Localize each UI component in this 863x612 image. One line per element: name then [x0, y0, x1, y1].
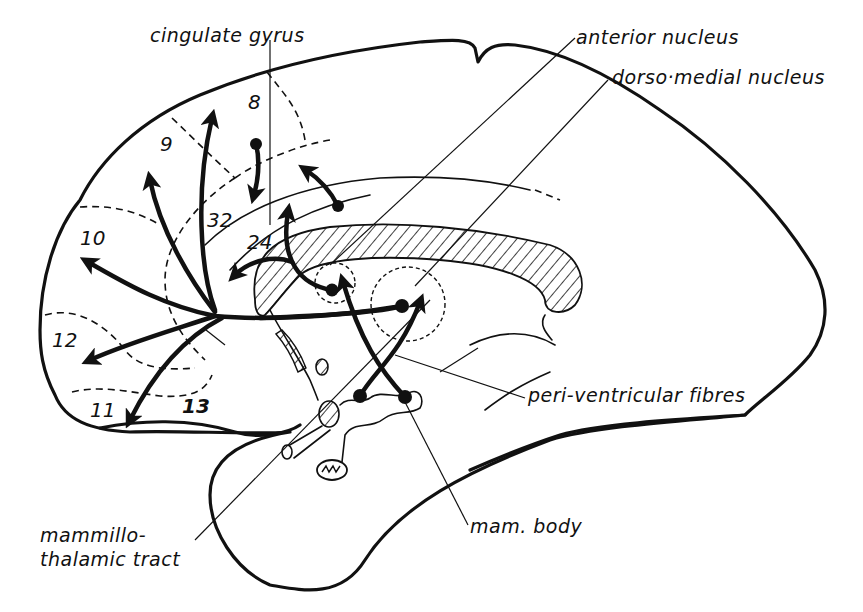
optic-nerve — [288, 426, 330, 458]
label-mammillo-thalamic-tract-line2: thalamic tract — [40, 550, 180, 569]
area-13: 13 — [182, 396, 210, 416]
diagram-drawing — [0, 0, 863, 612]
area-32: 32 — [207, 210, 232, 230]
hemisphere-outline — [40, 40, 825, 590]
area-12: 12 — [52, 330, 77, 350]
area-10: 10 — [80, 228, 105, 248]
optic-chiasm — [319, 401, 339, 427]
thalamus-lower-contour — [470, 334, 555, 345]
fornix-line — [543, 315, 552, 340]
area-8: 8 — [248, 92, 261, 112]
label-anterior-nucleus: anterior nucleus — [576, 28, 739, 47]
label-mam-body: mam. body — [470, 517, 582, 536]
mam-body-node-right — [398, 390, 412, 404]
area-9: 9 — [160, 134, 173, 154]
label-peri-ventricular-fibres: peri-ventricular fibres — [528, 386, 745, 405]
label-cingulate-gyrus: cingulate gyrus — [150, 26, 305, 45]
mam-body-node-left — [353, 389, 367, 403]
pituitary — [317, 460, 347, 480]
area-11: 11 — [90, 400, 115, 420]
label-dorso-medial-nucleus: dorso·medial nucleus — [612, 68, 825, 87]
label-mammillo-thalamic-tract-line1: mammillo- — [40, 526, 146, 545]
area-24: 24 — [247, 232, 272, 252]
brain-diagram: cingulate gyrus anterior nucleus dorso·m… — [0, 0, 863, 612]
anterior-commissure — [316, 359, 328, 375]
optic-nerve-end — [282, 445, 292, 459]
projection-fibres — [88, 118, 420, 420]
cingulate-sulcus-dashed — [535, 190, 560, 200]
brainstem-outline — [470, 415, 745, 470]
